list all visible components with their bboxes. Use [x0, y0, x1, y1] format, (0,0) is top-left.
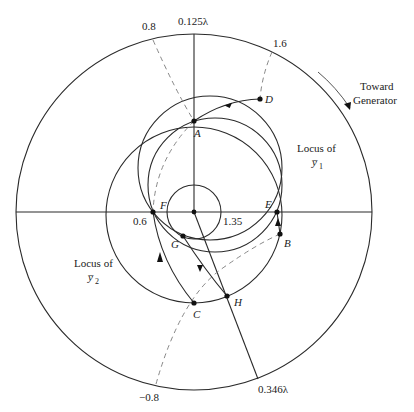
label-H: H — [233, 296, 243, 308]
point-B — [277, 231, 282, 236]
label-B: B — [284, 237, 291, 249]
point-E — [274, 209, 279, 214]
label-0125-lambda: 0.125λ — [178, 15, 209, 27]
point-F — [150, 209, 155, 214]
smith-chart: A B C D E F G H 0.125λ 0.346λ 0.8 1.6 −0… — [0, 0, 414, 412]
label-C: C — [193, 308, 201, 320]
label-D: D — [264, 93, 273, 105]
path-A-to-D — [194, 99, 260, 121]
locus-y2-line1: Locus of — [74, 257, 113, 269]
toward-label-line1: Toward — [360, 80, 394, 92]
label-G: G — [171, 238, 179, 250]
locus-y1-symbol: y̅ — [311, 156, 318, 168]
arrow-B-E — [275, 218, 281, 226]
dashed-arc-0.8 — [153, 40, 194, 121]
locus-y2-subscript: 2 — [95, 277, 99, 286]
label-E: E — [264, 198, 272, 210]
locus-y1-subscript: 1 — [319, 162, 323, 171]
center-point — [192, 210, 197, 215]
label-0.6: 0.6 — [133, 215, 147, 227]
label-0.8: 0.8 — [142, 20, 156, 32]
label-1.6: 1.6 — [273, 37, 287, 49]
toward-generator-arrowhead — [344, 102, 351, 110]
point-D — [257, 96, 262, 101]
locus-y1-circle — [138, 96, 282, 240]
label-0346-lambda: 0.346λ — [258, 383, 289, 395]
dashed-arc-1.6 — [260, 52, 272, 99]
locus-y2-symbol: y̅ — [87, 271, 94, 283]
point-H — [224, 293, 229, 298]
arrow-C-F — [157, 252, 163, 262]
label-A: A — [193, 127, 201, 139]
dashed-arc-minus-0.8 — [156, 234, 280, 384]
toward-label-line2: Generator — [353, 94, 397, 106]
label-minus-0.8: −0.8 — [139, 391, 159, 403]
locus-y1-line1: Locus of — [297, 142, 336, 154]
label-F: F — [159, 199, 167, 211]
arrow-G-H — [197, 265, 203, 272]
path-G-to-H — [183, 236, 227, 296]
point-C — [191, 300, 196, 305]
point-G — [180, 233, 185, 238]
label-1.35: 1.35 — [223, 215, 243, 227]
point-A — [191, 118, 196, 123]
unity-conductance-circle — [148, 118, 282, 252]
